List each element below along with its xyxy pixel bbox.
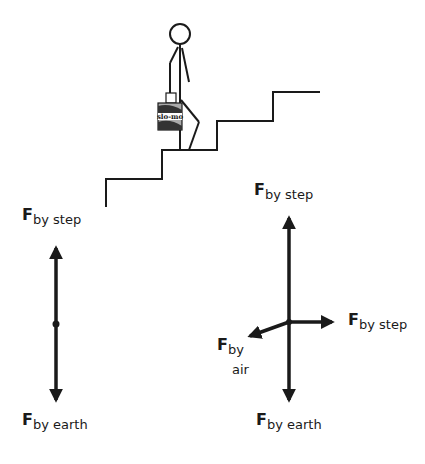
right-down-force-label: Fby earth [256, 412, 322, 428]
air-resistance-arrow [250, 322, 289, 336]
air-force-label-line2: air [232, 363, 249, 376]
stick-figure [170, 24, 199, 150]
right-leg-thigh [181, 100, 199, 122]
left-arm [170, 47, 178, 63]
right-leg-shin [189, 122, 199, 150]
free-body-diagram-scene: slo-mo [0, 0, 425, 464]
head [170, 24, 190, 44]
left-force-diagram [53, 248, 60, 400]
right-horizontal-force-label: Fby step [348, 312, 407, 328]
air-force-label: Fby [217, 337, 244, 353]
right-force-diagram [250, 218, 332, 400]
left-point [53, 321, 60, 328]
right-up-force-label: Fby step [254, 182, 313, 198]
left-down-force-label: Fby earth [22, 412, 88, 428]
svg-text:slo-mo: slo-mo [157, 112, 184, 121]
right-arm [182, 48, 189, 82]
left-up-force-label: Fby step [22, 207, 81, 223]
right-point [286, 319, 292, 325]
